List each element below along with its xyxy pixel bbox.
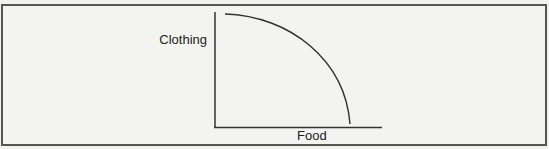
y-axis-label: Clothing xyxy=(159,32,207,47)
ppf-curve xyxy=(225,14,350,124)
x-axis-label: Food xyxy=(297,128,327,143)
ppf-diagram xyxy=(0,0,549,149)
